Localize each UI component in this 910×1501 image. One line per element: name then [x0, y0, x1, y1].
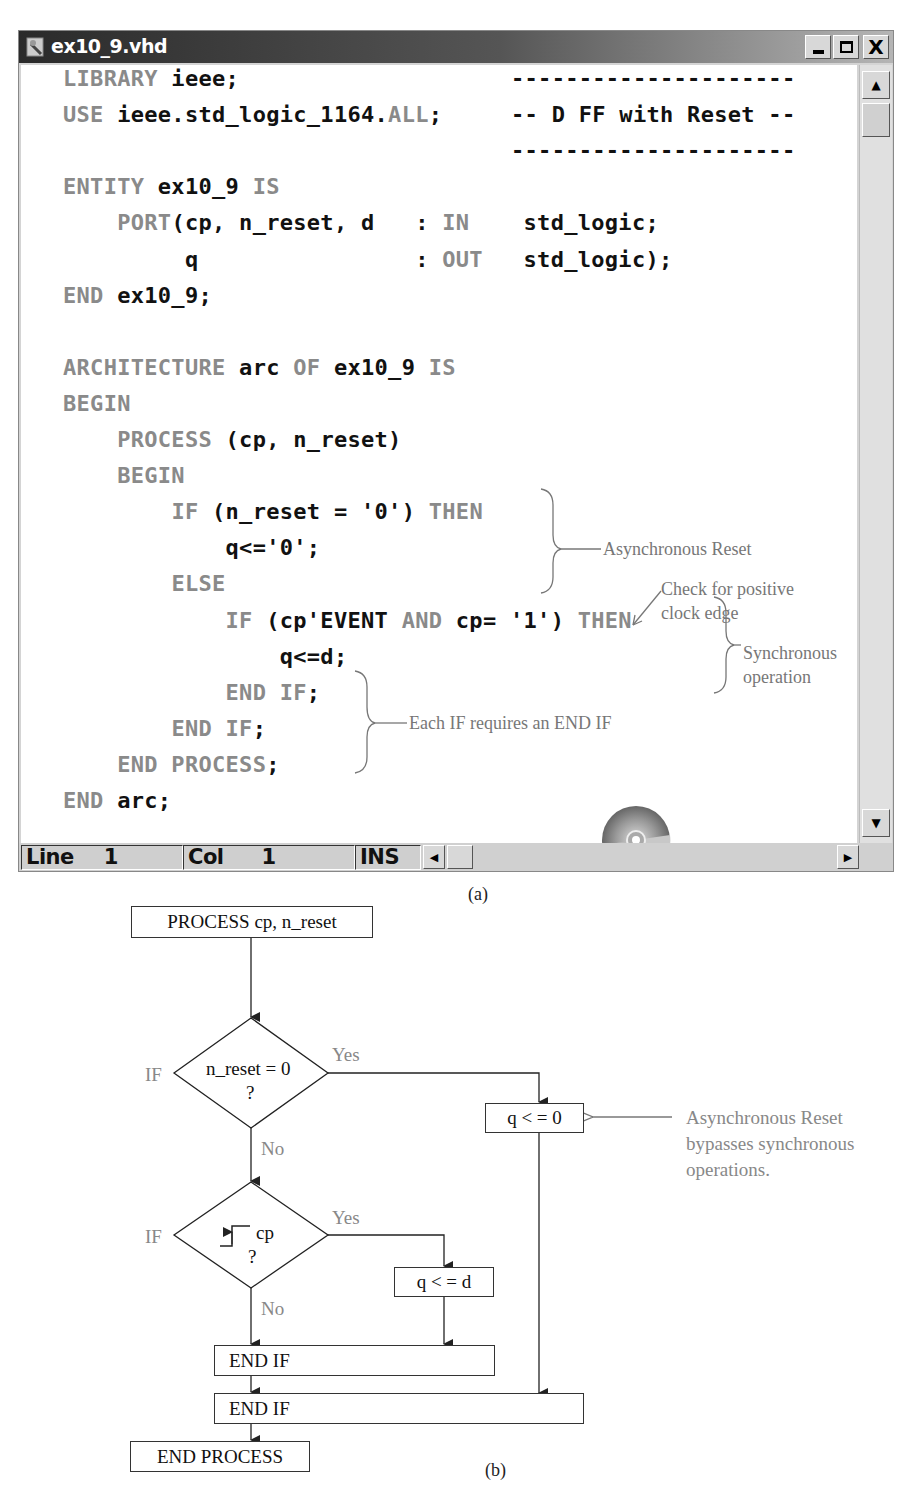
caption-b: (b) — [485, 1460, 506, 1481]
flow-note: Asynchronous Reset bypasses synchronous … — [686, 1105, 854, 1183]
note-line-3: operations. — [686, 1157, 854, 1183]
flow-end-if-outer: END IF — [214, 1393, 584, 1424]
flow-end-if-inner: END IF — [214, 1345, 495, 1376]
decision2-if-label: IF — [145, 1226, 162, 1248]
decision1-label: n_reset = 0 — [206, 1058, 291, 1080]
flow-process-start: PROCESS cp, n_reset — [131, 906, 373, 938]
decision2-yes-label: Yes — [332, 1207, 360, 1229]
flow-assign-reset: q < = 0 — [485, 1103, 584, 1133]
decision1-question: ? — [246, 1082, 254, 1104]
decision1-if-label: IF — [145, 1064, 162, 1086]
note-line-2: bypasses synchronous — [686, 1131, 854, 1157]
rising-edge-icon — [218, 1224, 252, 1248]
decision1-no-label: No — [261, 1138, 284, 1160]
flow-process-end: END PROCESS — [130, 1441, 310, 1472]
note-line-1: Asynchronous Reset — [686, 1105, 854, 1131]
flow-assign-d: q < = d — [394, 1267, 494, 1297]
decision1-yes-label: Yes — [332, 1044, 360, 1066]
decision2-question: ? — [248, 1246, 256, 1268]
decision2-no-label: No — [261, 1298, 284, 1320]
decision2-label: cp — [256, 1222, 274, 1244]
